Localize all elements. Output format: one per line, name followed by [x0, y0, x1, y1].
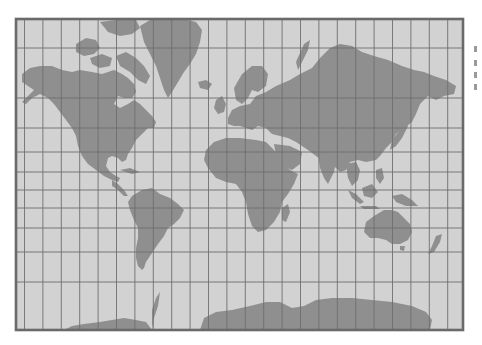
world-map: [0, 0, 482, 345]
clipped-text-fragment: [474, 60, 477, 66]
clipped-text-fragment: [474, 46, 477, 52]
clipped-text-fragment: [474, 72, 477, 78]
clipped-text-fragment: [474, 84, 477, 90]
